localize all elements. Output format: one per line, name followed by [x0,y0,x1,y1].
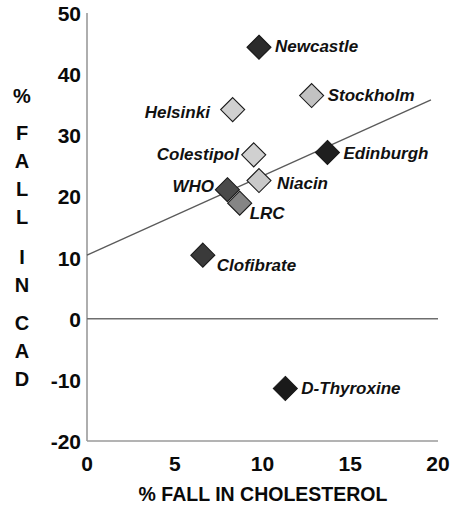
data-point-colestipol[interactable] [242,143,266,167]
data-point-niacin[interactable] [247,169,271,193]
data-point-stockholm[interactable] [300,84,324,108]
data-point-helsinki[interactable] [221,98,245,122]
y-axis-title-char-1: F [16,122,28,144]
data-point-label-who: WHO [172,177,214,196]
x-axis-title: % FALL IN CHOLESTEROL [139,483,388,505]
chart-canvas: 05101520 50403020100-10-20 %FALLINCAD Ne… [0,0,459,509]
scatter-chart: 05101520 50403020100-10-20 %FALLINCAD Ne… [0,0,459,509]
y-axis-title-char-7: C [15,312,29,334]
y-tick-label-40: 40 [58,63,81,86]
y-tick-label-0: 0 [69,308,81,331]
y-axis-title-char-8: A [15,340,29,362]
y-axis-title-char-3: L [16,178,28,200]
data-point-label-lrc: LRC [250,204,286,223]
data-point-d-thyroxine[interactable] [273,376,297,400]
x-tick-label-10: 10 [251,452,274,475]
y-tick-label-neg10: -10 [51,369,81,392]
x-axis-ticks: 05101520 [81,452,450,475]
y-axis-title-char-4: L [16,206,28,228]
data-point-label-colestipol: Colestipol [157,145,240,164]
x-tick-label-15: 15 [339,452,363,475]
y-tick-label-10: 10 [58,247,81,270]
y-tick-label-50: 50 [58,2,81,25]
data-point-label-d-thyroxine: D-Thyroxine [301,379,400,398]
data-point-label-edinburgh: Edinburgh [343,144,428,163]
x-tick-label-0: 0 [81,452,93,475]
y-axis-title-char-5: I [19,246,25,268]
data-point-label-newcastle: Newcastle [275,37,358,56]
data-point-label-stockholm: Stockholm [328,86,415,105]
y-axis-title-char-2: A [15,150,29,172]
y-axis-title: %FALLINCAD [13,85,31,390]
data-point-label-clofibrate: Clofibrate [217,256,296,275]
data-points-group: NewcastleStockholmHelsinkiColestipolEdin… [145,35,429,400]
data-point-clofibrate[interactable] [191,243,215,267]
data-point-label-helsinki: Helsinki [145,103,211,122]
x-tick-label-5: 5 [169,452,181,475]
y-tick-label-neg20: -20 [51,430,81,453]
y-axis-title-char-6: N [15,274,29,296]
data-point-label-niacin: Niacin [277,174,328,193]
axes-group [87,13,438,441]
y-tick-label-20: 20 [58,185,81,208]
y-tick-label-30: 30 [58,124,81,147]
y-axis-ticks: 50403020100-10-20 [51,2,81,453]
data-point-edinburgh[interactable] [315,140,339,164]
x-tick-label-20: 20 [426,452,449,475]
data-point-newcastle[interactable] [247,35,271,59]
y-axis-title-char-0: % [13,85,31,107]
y-axis-title-char-9: D [15,368,29,390]
